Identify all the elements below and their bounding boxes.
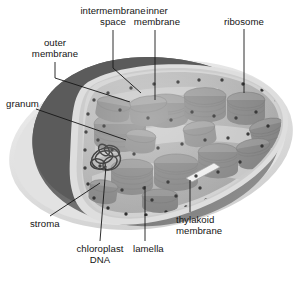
label-inner-membrane: inner membrane xyxy=(117,6,197,27)
label-granum: granum xyxy=(6,99,66,110)
label-chloroplast-dna: chloroplast DNA xyxy=(66,244,134,265)
chloroplast-diagram: intermembrane space inner membrane ribos… xyxy=(0,0,302,285)
label-stroma: stroma xyxy=(30,219,86,230)
label-outer-membrane: outer membrane xyxy=(14,38,96,59)
label-ribosome: ribosome xyxy=(209,17,279,28)
figure-caption-faint xyxy=(0,272,302,285)
label-lamella: lamella xyxy=(133,244,187,255)
label-thylakoid-membrane: thylakoid membrane xyxy=(176,215,262,236)
